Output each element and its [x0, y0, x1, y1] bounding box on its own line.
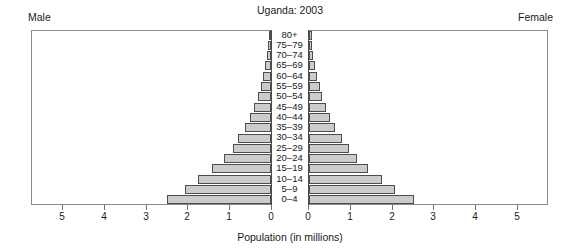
- female-side-label: Female: [518, 11, 553, 23]
- female-bar: [309, 185, 395, 194]
- female-bar: [309, 103, 326, 112]
- axis-tick-label: 0: [293, 211, 323, 222]
- age-group-label: 55–59: [271, 81, 308, 92]
- axis-tick-label: 4: [89, 211, 119, 222]
- axis-tick-label: 2: [377, 211, 407, 222]
- population-pyramid-chart: Uganda: 2003 Male Female 0–45–910–1415–1…: [0, 0, 580, 252]
- female-bar: [309, 61, 315, 70]
- pyramid-row: 70–74: [31, 51, 548, 61]
- female-bar: [309, 144, 349, 153]
- axis-tick-label: 3: [418, 211, 448, 222]
- axis-tick: [308, 205, 309, 210]
- axis-tick: [146, 205, 147, 210]
- axis-tick: [104, 205, 105, 210]
- axis-tick: [475, 205, 476, 210]
- age-group-label: 15–19: [271, 163, 308, 174]
- axis-tick-label: 4: [460, 211, 490, 222]
- female-bar: [309, 113, 330, 122]
- pyramid-row: 60–64: [31, 71, 548, 81]
- pyramid-row: 0–4: [31, 195, 548, 205]
- male-bar: [263, 72, 271, 81]
- pyramid-row: 30–34: [31, 133, 548, 143]
- axis-tick-label: 1: [335, 211, 365, 222]
- male-bar: [238, 134, 271, 143]
- male-bar: [224, 154, 271, 163]
- male-bar: [261, 82, 271, 91]
- male-bar: [250, 113, 271, 122]
- pyramid-row: 10–14: [31, 174, 548, 184]
- female-bar: [309, 175, 382, 184]
- axis-tick: [517, 205, 518, 210]
- plot-area: 0–45–910–1415–1920–2425–2930–3435–3940–4…: [31, 30, 548, 205]
- age-group-label: 50–54: [271, 91, 308, 102]
- pyramid-row: 55–59: [31, 81, 548, 91]
- axis-tick: [229, 205, 230, 210]
- pyramid-row: 50–54: [31, 92, 548, 102]
- pyramid-row: 15–19: [31, 164, 548, 174]
- age-group-label: 25–29: [271, 143, 308, 154]
- axis-tick-label: 0: [256, 211, 286, 222]
- female-bar: [309, 51, 313, 60]
- age-group-label: 75–79: [271, 40, 308, 51]
- age-group-label: 0–4: [271, 194, 308, 205]
- axis-tick: [187, 205, 188, 210]
- female-zero-baseline: [308, 30, 309, 205]
- male-bar: [185, 185, 271, 194]
- axis-tick: [433, 205, 434, 210]
- axis-tick-label: 3: [131, 211, 161, 222]
- axis-tick-label: 2: [172, 211, 202, 222]
- male-bar: [245, 123, 271, 132]
- female-bar: [309, 41, 312, 50]
- male-bar: [167, 195, 272, 204]
- pyramid-row: 75–79: [31, 40, 548, 50]
- pyramid-row: 80+: [31, 30, 548, 40]
- age-group-label: 5–9: [271, 184, 308, 195]
- age-group-label: 60–64: [271, 71, 308, 82]
- age-group-label: 30–34: [271, 132, 308, 143]
- axis-tick-label: 1: [214, 211, 244, 222]
- age-group-label: 70–74: [271, 50, 308, 61]
- male-bar: [212, 164, 271, 173]
- age-group-label: 45–49: [271, 102, 308, 113]
- male-bar: [233, 144, 271, 153]
- axis-tick: [271, 205, 272, 210]
- female-bar: [309, 195, 414, 204]
- female-bar: [309, 123, 335, 132]
- age-group-label: 20–24: [271, 153, 308, 164]
- male-side-label: Male: [28, 11, 51, 23]
- axis-tick: [62, 205, 63, 210]
- age-group-label: 40–44: [271, 112, 308, 123]
- age-group-label: 80+: [271, 30, 308, 41]
- male-bar: [254, 103, 271, 112]
- female-bar: [309, 134, 342, 143]
- female-bar: [309, 72, 317, 81]
- axis-tick: [392, 205, 393, 210]
- age-group-label: 65–69: [271, 60, 308, 71]
- female-bar: [309, 31, 312, 40]
- female-bar: [309, 82, 320, 91]
- pyramid-row: 45–49: [31, 102, 548, 112]
- male-bar: [198, 175, 271, 184]
- page-title: Uganda: 2003: [0, 4, 580, 16]
- axis-tick-label: 5: [502, 211, 532, 222]
- male-bar: [258, 92, 271, 101]
- pyramid-row: 5–9: [31, 184, 548, 194]
- pyramid-row: 35–39: [31, 123, 548, 133]
- axis-tick: [350, 205, 351, 210]
- female-bar: [309, 92, 322, 101]
- axis-tick-label: 5: [47, 211, 77, 222]
- age-group-label: 10–14: [271, 174, 308, 185]
- pyramid-row: 20–24: [31, 154, 548, 164]
- x-axis-title: Population (in millions): [0, 231, 580, 243]
- female-bar: [309, 154, 357, 163]
- pyramid-row: 65–69: [31, 61, 548, 71]
- pyramid-row: 25–29: [31, 143, 548, 153]
- age-group-label: 35–39: [271, 122, 308, 133]
- female-bar: [309, 164, 368, 173]
- pyramid-row: 40–44: [31, 112, 548, 122]
